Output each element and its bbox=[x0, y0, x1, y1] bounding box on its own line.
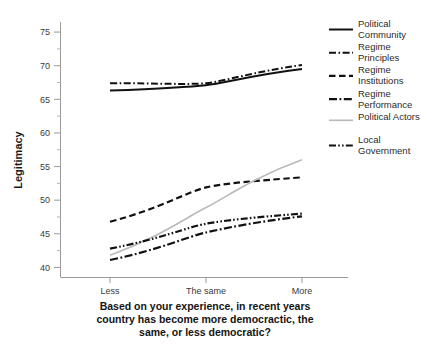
legend-label-line-1[interactable]: Political Actors bbox=[358, 111, 420, 122]
legend-label-line-1[interactable]: Regime bbox=[358, 88, 391, 99]
x-axis-title-line-3: same, or less democratic? bbox=[139, 326, 271, 338]
y-axis-title: Legitimacy bbox=[12, 130, 24, 188]
y-tick-label: 50 bbox=[40, 195, 50, 205]
y-tick-label: 45 bbox=[40, 229, 50, 239]
x-tick-label: More bbox=[292, 286, 313, 296]
y-tick-label: 55 bbox=[40, 162, 50, 172]
x-tick-label: The same bbox=[186, 286, 226, 296]
y-tick-label: 40 bbox=[40, 263, 50, 273]
y-tick-label: 65 bbox=[40, 95, 50, 105]
legend-label-line-2[interactable]: Institutions bbox=[358, 75, 404, 86]
x-axis-title-line-2: country has become more democractic, the bbox=[96, 313, 313, 325]
line-chart-svg: 4045505560657075 LessThe sameMore Legiti… bbox=[0, 0, 421, 348]
legend-label-line-1[interactable]: Local bbox=[358, 134, 381, 145]
y-tick-label: 70 bbox=[40, 61, 50, 71]
legend-label-line-2[interactable]: Government bbox=[358, 145, 411, 156]
x-axis-title-line-1: Based on your experience, in recent year… bbox=[100, 300, 311, 312]
legend-label-line-2[interactable]: Community bbox=[358, 29, 406, 40]
legend-label-line-1[interactable]: Regime bbox=[358, 64, 391, 75]
chart-figure: 4045505560657075 LessThe sameMore Legiti… bbox=[0, 0, 421, 348]
y-tick-label: 60 bbox=[40, 128, 50, 138]
x-tick-label: Less bbox=[100, 286, 120, 296]
legend-label-line-1[interactable]: Political bbox=[358, 18, 391, 29]
legend-label-line-2[interactable]: Performance bbox=[358, 99, 412, 110]
legend-label-line-1[interactable]: Regime bbox=[358, 41, 391, 52]
y-tick-label: 75 bbox=[40, 27, 50, 37]
legend-label-line-2[interactable]: Principles bbox=[358, 52, 399, 63]
